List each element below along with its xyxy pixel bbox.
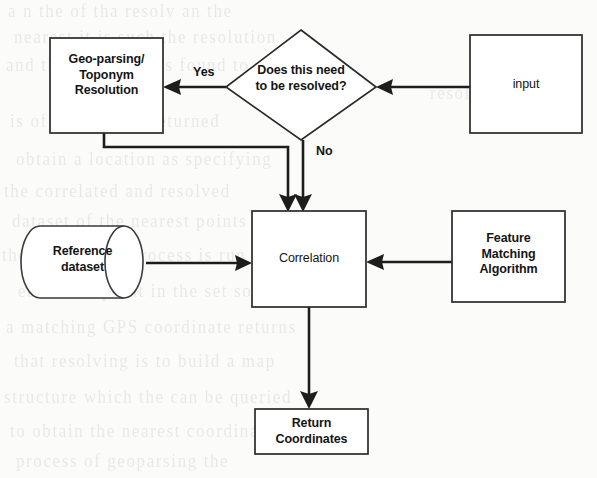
edge-correlation-to-return bbox=[300, 307, 318, 409]
node-correlation-shape[interactable] bbox=[252, 211, 366, 307]
edge-reference-to-correlation bbox=[146, 255, 252, 271]
node-decision-shape[interactable] bbox=[226, 30, 376, 140]
edge-input-to-decision bbox=[376, 79, 470, 95]
node-input-shape[interactable] bbox=[470, 35, 582, 133]
flowchart-page: a n the of tha resolv an the nearest it … bbox=[0, 0, 597, 478]
node-return-coordinates-shape[interactable] bbox=[255, 409, 368, 454]
node-geo-parsing-shape[interactable] bbox=[50, 38, 163, 133]
node-reference-dataset-shape[interactable] bbox=[21, 226, 143, 298]
node-feature-matching-shape[interactable] bbox=[452, 211, 565, 302]
edge-geo-parsing-to-correlation bbox=[104, 133, 297, 212]
edge-decision-to-correlation bbox=[294, 140, 312, 212]
edge-decision-to-geo-parsing bbox=[163, 79, 226, 95]
edge-feature-matching-to-correlation bbox=[366, 254, 452, 270]
flowchart-canvas bbox=[0, 0, 597, 478]
